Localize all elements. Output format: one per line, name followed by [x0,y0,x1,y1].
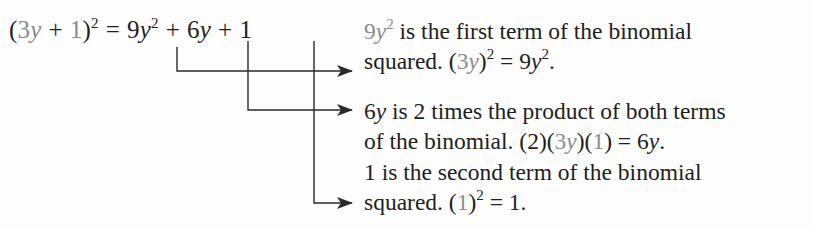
annotation-text: is 2 times the product of both terms [386,98,725,124]
equals-text: = 1. [484,189,527,215]
var: y [566,128,576,154]
paren: ) [604,128,612,154]
paren: ) [479,48,487,74]
period: . [549,48,555,74]
coef: 9 [364,18,376,44]
arrow-last-term [314,41,352,203]
annotation-line: of the binomial. (2)(3y)(1) = 6y. [364,126,726,156]
highlight-term: 3y [555,128,577,154]
var: y [531,48,541,74]
annotation-line: 6y is 2 times the product of both terms [364,96,726,126]
annotation-last-term: 1 is the second term of the binomial squ… [364,157,701,217]
period: . [659,128,665,154]
annotation-text: is the first term of the binomial [394,18,692,44]
annotation-line: squared. (3y)2 = 9y2. [364,46,692,76]
annotation-middle-term: 6y is 2 times the product of both terms … [364,96,726,156]
exp: 2 [386,16,394,32]
var: y [468,48,478,74]
arrow-middle-term [248,41,352,110]
coef: 3 [555,128,567,154]
equals-text: = 6 [612,128,649,154]
paren: )( [577,128,593,154]
coef: 6 [364,98,376,124]
exp: 2 [476,187,484,203]
highlight-term: 1 [457,189,469,215]
annotation-text: of the binomial. (2)( [364,128,555,154]
var: y [376,98,386,124]
highlight-term: 3y [457,48,479,74]
annotation-line: 9y2 is the first term of the binomial [364,16,692,46]
highlight-term: 1 [592,128,604,154]
annotation-text: squared. [364,48,449,74]
highlight-term: 9y2 [364,18,394,44]
var: y [376,18,386,44]
arrow-first-term [177,47,352,71]
annotation-first-term: 9y2 is the first term of the binomial sq… [364,16,692,76]
coef: 3 [457,48,469,74]
annotation-text: squared. ( [364,189,457,215]
paren: ( [449,48,457,74]
exp: 2 [541,46,549,62]
annotation-line: 1 is the second term of the binomial [364,157,701,187]
var: y [649,128,659,154]
annotation-line: squared. (1)2 = 1. [364,187,701,217]
equals-text: = 9 [494,48,531,74]
